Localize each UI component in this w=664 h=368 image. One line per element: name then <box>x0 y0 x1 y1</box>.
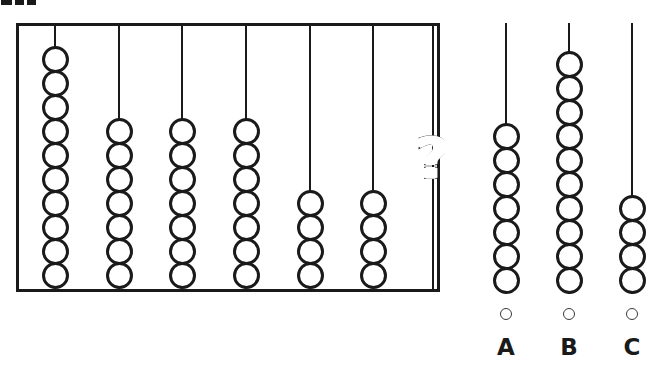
bead <box>106 214 133 241</box>
bead <box>556 243 583 270</box>
bead <box>42 142 69 169</box>
abacus-rod-6[interactable] <box>347 26 399 289</box>
bead <box>297 262 324 289</box>
cropped-header-fragment <box>0 0 40 7</box>
bead <box>556 51 583 78</box>
bead <box>42 262 69 289</box>
bead <box>169 190 196 217</box>
bead <box>42 190 69 217</box>
bead <box>619 195 646 222</box>
bead <box>106 190 133 217</box>
header-fragment-mark-2 <box>15 0 24 5</box>
abacus-frame: ? <box>16 23 440 292</box>
option-a[interactable]: A <box>478 23 534 368</box>
bead <box>556 123 583 150</box>
header-fragment-mark-1 <box>1 0 12 5</box>
bead <box>493 219 520 246</box>
bead <box>106 238 133 265</box>
bead <box>556 195 583 222</box>
bead <box>233 190 260 217</box>
option-c-label: C <box>604 336 660 359</box>
option-c[interactable]: C <box>604 23 660 368</box>
bead <box>360 262 387 289</box>
bead <box>297 190 324 217</box>
bead <box>106 142 133 169</box>
bead <box>106 118 133 145</box>
option-c-radio[interactable] <box>626 308 638 320</box>
bead <box>556 75 583 102</box>
bead <box>556 171 583 198</box>
bead-stack <box>220 121 272 289</box>
option-b[interactable]: B <box>541 23 597 368</box>
option-a-rod <box>478 23 534 294</box>
bead-stack <box>604 198 660 294</box>
option-b-radio[interactable] <box>563 308 575 320</box>
bead <box>556 147 583 174</box>
bead <box>556 267 583 294</box>
bead <box>619 219 646 246</box>
question-mark-glyph: ? <box>416 130 448 186</box>
bead <box>360 214 387 241</box>
option-a-radio[interactable] <box>500 308 512 320</box>
bead <box>233 238 260 265</box>
bead <box>360 190 387 217</box>
abacus-rod-4[interactable] <box>220 26 272 289</box>
bead-stack <box>347 193 399 289</box>
bead <box>233 214 260 241</box>
question-mark: ? <box>416 130 448 186</box>
bead <box>169 262 196 289</box>
abacus-rod-3[interactable] <box>156 26 208 289</box>
bead-stack <box>478 126 534 294</box>
bead <box>169 118 196 145</box>
bead <box>556 219 583 246</box>
abacus-rod-1[interactable] <box>29 26 81 289</box>
bead <box>493 267 520 294</box>
bead <box>619 243 646 270</box>
bead <box>297 214 324 241</box>
bead <box>42 70 69 97</box>
option-a-label: A <box>478 336 534 359</box>
bead <box>619 267 646 294</box>
bead <box>493 171 520 198</box>
bead <box>42 94 69 121</box>
bead <box>233 142 260 169</box>
bead <box>169 214 196 241</box>
bead-stack <box>156 121 208 289</box>
bead <box>42 118 69 145</box>
abacus-rod-2[interactable] <box>93 26 145 289</box>
bead <box>169 142 196 169</box>
bead <box>233 262 260 289</box>
bead <box>493 195 520 222</box>
bead <box>233 118 260 145</box>
header-fragment-mark-3 <box>27 0 36 5</box>
bead <box>169 166 196 193</box>
bead-stack <box>93 121 145 289</box>
abacus-rod-7[interactable]: ? <box>407 26 459 289</box>
option-c-rod <box>604 23 660 294</box>
bead-stack <box>541 54 597 294</box>
bead <box>42 238 69 265</box>
option-b-label: B <box>541 336 597 359</box>
bead <box>233 166 260 193</box>
bead-stack <box>284 193 336 289</box>
abacus-rod-5[interactable] <box>284 26 336 289</box>
bead <box>42 46 69 73</box>
bead <box>106 262 133 289</box>
bead <box>106 166 133 193</box>
answer-options: ABC <box>478 23 664 368</box>
bead <box>42 214 69 241</box>
bead <box>493 243 520 270</box>
option-b-rod <box>541 23 597 294</box>
bead <box>493 147 520 174</box>
bead <box>169 238 196 265</box>
bead <box>493 123 520 150</box>
bead <box>360 238 387 265</box>
bead-stack <box>29 49 81 289</box>
bead <box>42 166 69 193</box>
bead <box>556 99 583 126</box>
bead <box>297 238 324 265</box>
